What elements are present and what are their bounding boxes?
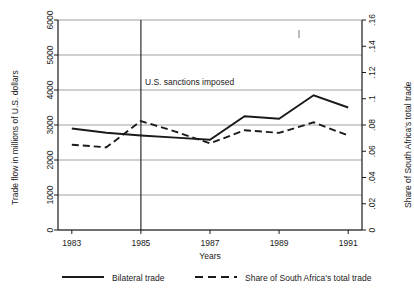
left-axis-tick-label: 2000 (45, 150, 55, 169)
right-axis-tick-label: .16 (367, 14, 377, 26)
left-axis-tick-label: 3000 (45, 115, 55, 134)
left-axis-title: Trade flow in millions of U.S. dollars (10, 70, 20, 205)
x-axis-tick-label: 1985 (131, 238, 150, 248)
right-axis-tick-label: .14 (367, 40, 377, 52)
x-axis-tick-label: 1983 (62, 238, 81, 248)
left-axis-tick-label: 4000 (45, 80, 55, 99)
right-axis-tick-label: 0 (367, 227, 377, 232)
x-axis-tick-label: 1987 (201, 238, 220, 248)
right-axis-tick-label: .1 (367, 95, 377, 102)
series-line-1 (72, 95, 348, 139)
annotation-label: U.S. sanctions imposed (145, 77, 235, 87)
right-axis-tick-label: .04 (367, 171, 377, 183)
right-axis-tick-label: .06 (367, 145, 377, 157)
legend-label-bilateral-trade: Bilateral trade (112, 273, 165, 283)
right-axis-tick-label: .12 (367, 66, 377, 78)
right-axis-tick-label: .08 (367, 119, 377, 131)
legend-label-share-total-trade: Share of South Africa's total trade (245, 273, 372, 283)
chart-figure: Trade flow in millions of U.S. dollars S… (0, 0, 414, 295)
right-axis-title: Share of South Africa's total trade (403, 82, 413, 208)
left-axis-tick-label: 5000 (45, 45, 55, 64)
x-axis-tick-label: 1989 (270, 238, 289, 248)
left-axis-tick-label: 1000 (45, 185, 55, 204)
x-axis-tick-label: 1991 (339, 238, 358, 248)
right-axis-tick-label: .02 (367, 198, 377, 210)
left-axis-tick-label: 0 (45, 227, 55, 232)
chart-canvas: 01000200030004000500060000.02.04.06.08.1… (0, 0, 414, 295)
x-axis-title: Years (199, 251, 220, 261)
left-axis-tick-label: 6000 (45, 10, 55, 29)
